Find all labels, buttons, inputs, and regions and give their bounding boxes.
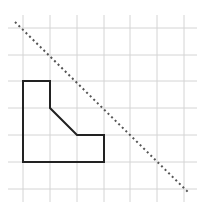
dotted-reflection-line: [15, 22, 188, 192]
grid-diagram: [0, 0, 203, 216]
polygon-shape: [23, 81, 104, 162]
